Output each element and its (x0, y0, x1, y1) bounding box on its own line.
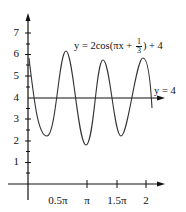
line-y4-label: y = 4 (154, 86, 176, 97)
x-tick-label-2: 2 (140, 195, 152, 206)
x-tick-label-pi: π (80, 195, 94, 206)
curve-equation-label: y = 2cos(πx + 13) + 4 (74, 38, 163, 55)
x-axis-arrow-icon (157, 182, 165, 187)
y-axis-arrow-icon (26, 13, 31, 21)
y-tick-label-5: 5 (7, 70, 19, 81)
y-tick-label-7: 7 (7, 27, 19, 38)
equation-suffix: ) + 4 (143, 40, 163, 51)
equation-prefix: y = 2cos(πx + (74, 40, 135, 51)
chart-plot-area (0, 0, 186, 212)
fraction-denominator: 3 (136, 47, 142, 55)
y-tick-label-3: 3 (7, 113, 19, 124)
y-tick-label-6: 6 (7, 48, 19, 59)
x-tick-label-1.5pi: 1.5π (104, 195, 130, 206)
y-tick-label-2: 2 (7, 135, 19, 146)
equation-fraction: 13 (136, 38, 142, 55)
y-tick-label-1: 1 (7, 156, 19, 167)
x-tick-label-0.5pi: 0.5π (45, 195, 71, 206)
y-tick-label-4: 4 (7, 92, 19, 103)
